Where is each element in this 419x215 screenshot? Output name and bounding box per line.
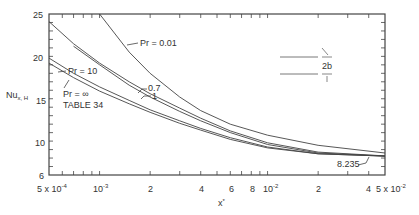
label-pr-001: Pr = 0.01: [140, 38, 177, 48]
pointer-pr-001: [127, 43, 138, 45]
x-tick-5e-4: 5 x 10-4: [37, 183, 68, 194]
x-tick-4e-3: 4: [199, 184, 204, 194]
x-tick-8e-3: 8: [250, 184, 255, 194]
x-axis-label: x*: [218, 198, 226, 208]
plot-frame: [49, 14, 385, 175]
y-axis-label: Nux, H: [6, 90, 28, 101]
curve-0: [100, 14, 385, 153]
axis-ticks: [49, 14, 385, 175]
x-tick-2e-2: 2: [316, 184, 321, 194]
y-tick-6: 6: [39, 171, 44, 181]
curves: [49, 14, 385, 156]
x-tick-1e-2: 10-2: [263, 183, 279, 194]
pointer-asymptote: [358, 157, 369, 165]
y-tick-15: 15: [36, 96, 46, 106]
x-tick-6e-3: 6: [229, 184, 234, 194]
y-tick-10: 10: [35, 138, 45, 148]
label-pr-10: Pr = 10: [68, 66, 97, 76]
chart: 25 20 15 10 6 Nux, H 5 x 10-4 10-3 2 4 6…: [0, 0, 419, 215]
label-table34: TABLE 34: [63, 100, 103, 110]
pointer-pr-10: [58, 71, 66, 72]
x-tick-5e-2: 5 x 10-2: [376, 183, 407, 194]
x-tick-4e-2: 4: [366, 184, 371, 194]
channel-diagram: 2b: [280, 48, 332, 82]
x-tick-2e-3: 2: [148, 184, 153, 194]
label-2b: 2b: [322, 61, 332, 71]
y-tick-25: 25: [33, 10, 43, 20]
label-asymptote: 8.235: [337, 159, 360, 169]
label-pr-inf: Pr = ∞: [63, 89, 89, 99]
y-tick-20: 20: [33, 53, 43, 63]
x-tick-1e-3: 10-3: [93, 183, 109, 194]
label-pr-1: 1: [152, 91, 157, 101]
pointer-pr-inf: [64, 80, 69, 88]
curve-1: [49, 22, 385, 156]
